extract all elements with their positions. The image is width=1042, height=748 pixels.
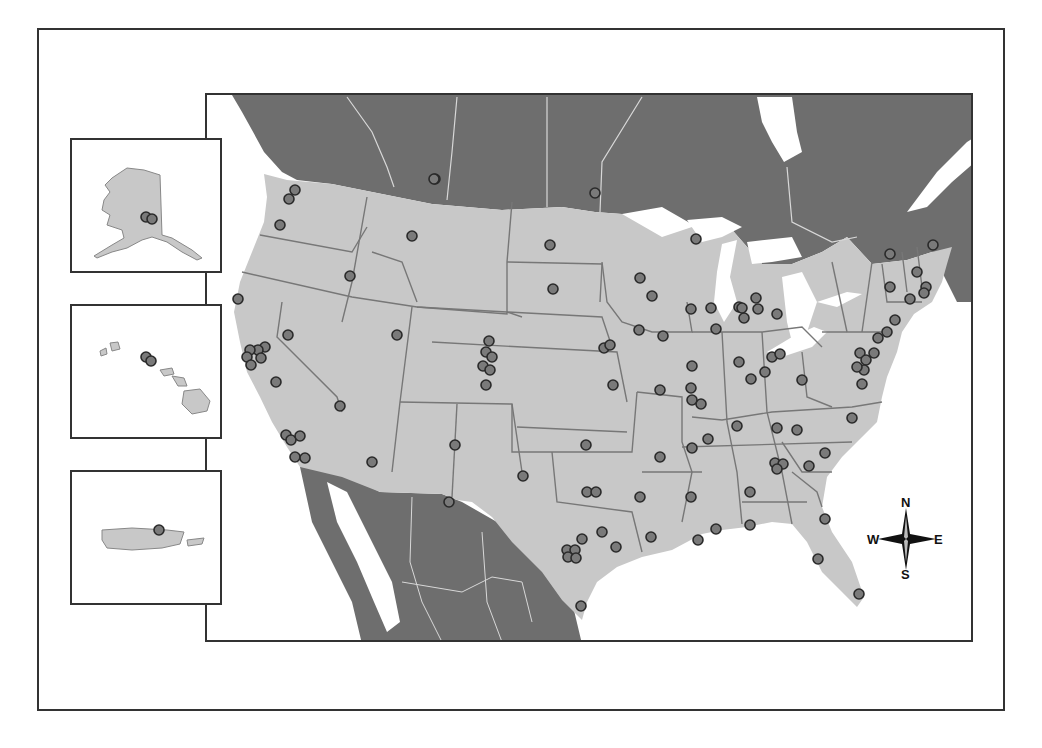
location-marker: [635, 492, 645, 502]
location-marker: [745, 487, 755, 497]
location-marker: [693, 535, 703, 545]
compass-south: S: [901, 568, 910, 581]
inset-hawaii: [70, 304, 222, 439]
location-marker: [890, 315, 900, 325]
location-marker: [912, 267, 922, 277]
location-marker: [345, 271, 355, 281]
location-marker: [290, 185, 300, 195]
location-marker: [655, 452, 665, 462]
location-marker: [857, 379, 867, 389]
location-marker: [485, 365, 495, 375]
location-marker: [882, 327, 892, 337]
location-marker: [367, 457, 377, 467]
location-marker: [753, 304, 763, 314]
location-marker: [233, 294, 243, 304]
compass-north: N: [901, 496, 910, 509]
location-marker: [300, 453, 310, 463]
inset-connector-1: [205, 272, 207, 304]
location-marker: [577, 534, 587, 544]
location-marker: [706, 303, 716, 313]
compass-west: W: [867, 533, 879, 546]
location-marker: [772, 423, 782, 433]
location-marker: [295, 431, 305, 441]
location-marker: [581, 440, 591, 450]
location-marker: [686, 492, 696, 502]
location-marker: [481, 380, 491, 390]
compass-rose: N S W E: [866, 496, 946, 582]
location-marker: [487, 352, 497, 362]
location-marker: [246, 360, 256, 370]
location-marker: [847, 413, 857, 423]
location-marker: [256, 353, 266, 363]
location-marker: [861, 355, 871, 365]
location-marker: [271, 377, 281, 387]
location-marker: [283, 330, 293, 340]
location-marker: [658, 331, 668, 341]
location-marker: [590, 188, 600, 198]
location-marker: [804, 461, 814, 471]
location-marker: [813, 554, 823, 564]
location-marker: [290, 452, 300, 462]
location-marker: [711, 324, 721, 334]
location-marker: [597, 527, 607, 537]
location-marker: [444, 497, 454, 507]
location-marker: [275, 220, 285, 230]
location-marker: [545, 240, 555, 250]
location-marker: [745, 520, 755, 530]
location-marker: [608, 380, 618, 390]
location-marker: [591, 487, 601, 497]
location-marker: [635, 273, 645, 283]
marker: [147, 214, 157, 224]
location-marker: [928, 240, 938, 250]
location-marker: [687, 395, 697, 405]
location-marker: [392, 330, 402, 340]
inset-connector-3: [205, 605, 207, 642]
location-marker: [737, 303, 747, 313]
location-marker: [687, 443, 697, 453]
location-marker: [686, 383, 696, 393]
location-marker: [820, 448, 830, 458]
location-marker: [739, 313, 749, 323]
location-marker: [751, 293, 761, 303]
marker: [146, 356, 156, 366]
location-marker: [732, 421, 742, 431]
us-map-graphic: [207, 95, 973, 642]
location-marker: [548, 284, 558, 294]
location-marker: [919, 288, 929, 298]
location-marker: [634, 325, 644, 335]
location-marker: [820, 514, 830, 524]
location-marker: [450, 440, 460, 450]
location-marker: [691, 234, 701, 244]
location-marker: [284, 194, 294, 204]
location-marker: [687, 361, 697, 371]
location-marker: [746, 374, 756, 384]
location-marker: [407, 231, 417, 241]
location-marker: [792, 425, 802, 435]
location-marker: [703, 434, 713, 444]
location-marker: [885, 282, 895, 292]
location-marker: [885, 249, 895, 259]
location-marker: [734, 357, 744, 367]
puerto-rico-land: [102, 528, 184, 550]
location-marker: [429, 174, 439, 184]
location-marker: [711, 524, 721, 534]
location-marker: [772, 309, 782, 319]
inset-connector-2: [205, 438, 207, 470]
location-marker: [797, 375, 807, 385]
inset-puerto-rico: [70, 470, 222, 605]
location-marker: [772, 464, 782, 474]
location-marker: [611, 542, 621, 552]
compass-east: E: [934, 533, 943, 546]
location-marker: [647, 291, 657, 301]
location-marker: [686, 304, 696, 314]
location-marker: [854, 589, 864, 599]
location-marker: [646, 532, 656, 542]
location-marker: [760, 367, 770, 377]
location-marker: [775, 349, 785, 359]
hawaii-big-island: [182, 389, 210, 414]
marker: [154, 525, 164, 535]
location-marker: [518, 471, 528, 481]
location-marker: [484, 336, 494, 346]
location-marker: [335, 401, 345, 411]
location-marker: [576, 601, 586, 611]
